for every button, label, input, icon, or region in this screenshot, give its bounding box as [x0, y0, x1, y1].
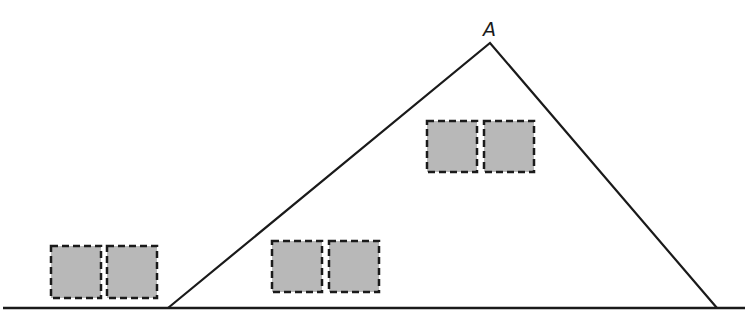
dashed-box-2 — [484, 121, 534, 172]
dashed-box-2 — [107, 246, 157, 298]
inside-top-pair — [427, 121, 534, 172]
left-ground-pair — [51, 246, 157, 298]
apex-label-a: A — [483, 20, 496, 39]
dashed-box-1 — [272, 241, 322, 292]
box-groups — [51, 121, 534, 298]
diagram-canvas — [0, 0, 749, 321]
dashed-box-2 — [329, 241, 379, 292]
dashed-box-1 — [427, 121, 477, 172]
inside-bottom-pair — [272, 241, 379, 292]
triangle-outline — [168, 43, 717, 308]
dashed-box-1 — [51, 246, 101, 298]
